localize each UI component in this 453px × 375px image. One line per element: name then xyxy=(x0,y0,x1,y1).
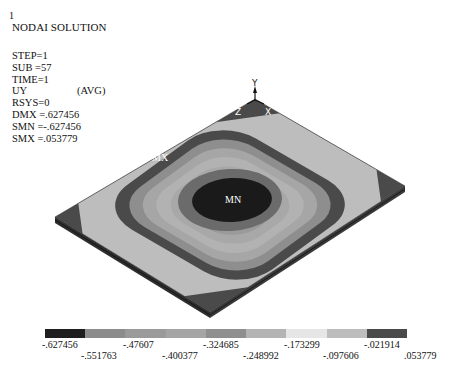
legend-label: -.400377 xyxy=(162,350,198,361)
triad-x-label: X xyxy=(265,107,271,117)
legend-segment-6 xyxy=(246,329,286,338)
legend-segment-7 xyxy=(286,329,326,338)
triad-y-label: Y xyxy=(251,78,258,88)
legend-label: -.324685 xyxy=(203,339,239,350)
legend-segment-4 xyxy=(166,329,206,338)
legend-label: .053779 xyxy=(404,350,437,361)
legend-segment-3 xyxy=(125,329,165,338)
triad-z-label: Z xyxy=(235,107,241,117)
legend-segment-5 xyxy=(206,329,246,338)
legend-label: -.173299 xyxy=(284,339,320,350)
legend-label: -.47607 xyxy=(123,339,154,350)
min-marker: MN xyxy=(225,194,241,205)
legend-segment-9 xyxy=(367,329,407,338)
legend-segment-2 xyxy=(85,329,125,338)
legend-label: -.021914 xyxy=(364,339,400,350)
legend-segment-8 xyxy=(327,329,367,338)
contour-legend-bar xyxy=(45,329,407,338)
legend-label: -.248992 xyxy=(243,350,279,361)
legend-label: -.627456 xyxy=(42,339,78,350)
contour-plot[interactable]: MN MX Y Z X xyxy=(0,0,453,375)
legend-label: -.097606 xyxy=(323,350,359,361)
legend-label: -.551763 xyxy=(81,350,117,361)
max-marker: MX xyxy=(152,152,169,163)
legend-segment-1 xyxy=(45,329,85,338)
